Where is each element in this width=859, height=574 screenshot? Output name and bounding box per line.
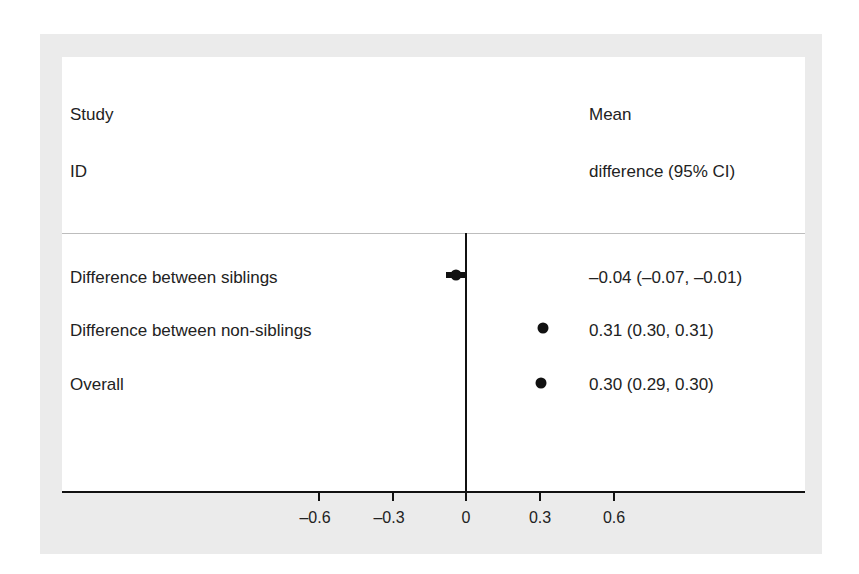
x-tick: [318, 492, 320, 501]
header-difference-ci: difference (95% CI): [589, 162, 735, 182]
row-label-overall: Overall: [70, 375, 124, 395]
x-tick: [392, 492, 394, 501]
x-tick: [465, 492, 467, 501]
row-estimate-siblings: –0.04 (–0.07, –0.01): [589, 268, 742, 288]
row-label-non-siblings: Difference between non-siblings: [70, 321, 312, 341]
x-axis: [62, 491, 805, 493]
point-estimate-siblings: [451, 270, 462, 281]
x-tick: [539, 492, 541, 501]
point-estimate-non-siblings: [538, 323, 549, 334]
x-tick-label: 0.6: [603, 509, 625, 527]
header-separator: [62, 233, 805, 234]
point-estimate-overall: [536, 378, 547, 389]
header-study: Study: [70, 105, 113, 125]
row-estimate-overall: 0.30 (0.29, 0.30): [589, 375, 714, 395]
x-tick-label: –0.3: [373, 509, 404, 527]
x-tick-label: 0: [462, 509, 471, 527]
x-tick-label: 0.3: [529, 509, 551, 527]
row-label-siblings: Difference between siblings: [70, 268, 278, 288]
header-mean: Mean: [589, 105, 632, 125]
x-tick-label: –0.6: [299, 509, 330, 527]
row-estimate-non-siblings: 0.31 (0.30, 0.31): [589, 321, 714, 341]
x-tick: [613, 492, 615, 501]
header-id: ID: [70, 162, 87, 182]
